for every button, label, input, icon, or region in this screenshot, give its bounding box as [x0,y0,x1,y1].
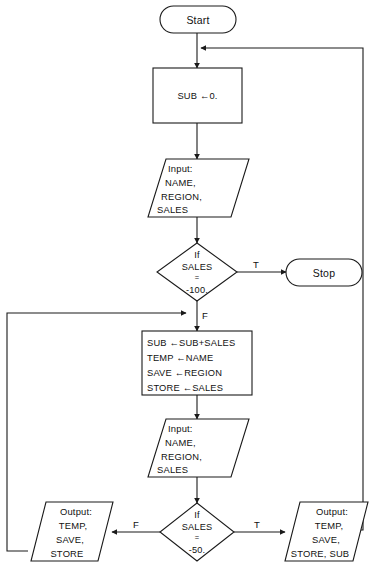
decision-first-line-4: -100. [186,285,208,295]
output-left-line-3: SAVE, [56,534,84,545]
node-init-sub[interactable]: SUB ←0. [153,68,242,123]
accumulate-line-1: SUB ←SUB+SALES [147,338,235,348]
input-second-line-1: Input: [168,423,193,434]
accumulate-line-4: STORE ←SALES [147,383,223,393]
output-right-line-3: SAVE, [312,534,340,545]
accumulate-line-3: SAVE ←REGION [147,368,222,378]
node-stop[interactable]: Stop [286,259,362,286]
decision-second-line-4: -50. [189,545,206,555]
decision-second-line-1: If [194,510,200,520]
decision-second-line-3: = [195,533,200,542]
output-left-line-2: TEMP, [59,520,87,531]
input-first-line-3: REGION, [161,191,202,202]
output-right-line-4: STORE, SUB [291,548,350,559]
decision-first-line-1: If [194,250,200,260]
branch-label-first-false: F [202,310,208,321]
start-label: Start [186,14,209,26]
decision-second-line-2: SALES [182,522,213,532]
output-right-line-2: TEMP, [315,520,343,531]
node-accumulate[interactable]: SUB ←SUB+SALES TEMP ←NAME SAVE ←REGION S… [142,331,252,395]
flowchart-canvas: Start SUB ←0. Input: NAME, REGION, SALES… [0,0,371,565]
output-left-line-4: STORE [50,548,83,559]
input-first-line-4: SALES [157,204,188,215]
init-sub-line-1: SUB ←0. [177,91,217,101]
node-input-second[interactable]: Input: NAME, REGION, SALES [148,419,249,477]
output-right-line-1: Output: [316,506,348,517]
flowchart-svg: Start SUB ←0. Input: NAME, REGION, SALES… [0,0,371,565]
branch-label-first-true: T [253,259,259,270]
node-start[interactable]: Start [160,6,236,33]
input-second-line-2: NAME, [165,437,196,448]
node-output-left[interactable]: Output: TEMP, SAVE, STORE [31,502,113,561]
output-left-line-1: Output: [60,506,92,517]
input-first-line-1: Input: [168,163,193,174]
input-second-line-3: REGION, [161,451,202,462]
decision-first-line-2: SALES [182,262,213,272]
branch-label-second-true: T [254,519,260,530]
node-decision-second[interactable]: If SALES = -50. [160,503,234,561]
accumulate-line-2: TEMP ←NAME [147,353,213,363]
decision-first-line-3: = [195,273,200,282]
stop-label: Stop [313,267,335,279]
node-decision-first[interactable]: If SALES = -100. [157,243,237,301]
input-first-line-2: NAME, [165,177,196,188]
branch-label-second-false: F [133,519,139,530]
input-second-line-4: SALES [157,464,188,475]
node-input-first[interactable]: Input: NAME, REGION, SALES [148,159,249,217]
node-output-right[interactable]: Output: TEMP, SAVE, STORE, SUB [285,502,368,561]
